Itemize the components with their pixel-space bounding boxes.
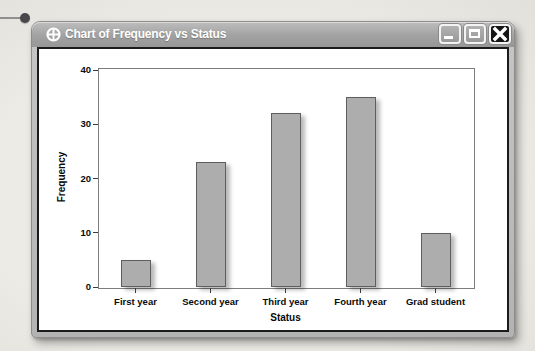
bar-first-year[interactable]: [121, 260, 151, 287]
window-content: Frequency Status 010203040First yearSeco…: [37, 47, 509, 332]
x-axis-tick: [210, 288, 211, 293]
y-axis-tick: [93, 287, 98, 288]
bar-chart: Frequency Status 010203040First yearSeco…: [39, 49, 507, 330]
window-title: Chart of Frequency vs Status: [65, 27, 226, 41]
x-axis-tick: [360, 288, 361, 293]
minimize-button[interactable]: [439, 24, 461, 44]
bar-third-year[interactable]: [271, 113, 301, 287]
y-axis-tick-label: 30: [63, 118, 91, 129]
y-axis-tick: [93, 70, 98, 71]
bar-fourth-year[interactable]: [346, 97, 376, 287]
x-axis-tick: [435, 288, 436, 293]
window-titlebar[interactable]: Chart of Frequency vs Status: [32, 22, 514, 47]
maximize-icon: [469, 29, 480, 38]
y-axis-tick-label: 0: [63, 281, 91, 292]
y-axis-tick-label: 10: [63, 227, 91, 238]
y-axis-tick: [93, 178, 98, 179]
maximize-button[interactable]: [464, 24, 486, 44]
close-button[interactable]: [489, 24, 511, 44]
chart-window: Chart of Frequency vs Status Frequen: [31, 21, 515, 338]
window-controls: [439, 24, 511, 44]
y-axis-tick-label: 20: [63, 173, 91, 184]
crosshair-globe-icon: [46, 27, 61, 42]
callout-dot-icon: [20, 13, 30, 23]
y-axis-tick: [93, 232, 98, 233]
x-axis-title: Status: [98, 312, 473, 323]
category-label: Grad student: [391, 296, 481, 307]
bar-grad-student[interactable]: [421, 233, 451, 287]
x-axis-tick: [285, 288, 286, 293]
minimize-icon: [444, 36, 453, 39]
y-axis-tick: [93, 124, 98, 125]
y-axis-tick-label: 40: [63, 64, 91, 75]
bar-second-year[interactable]: [196, 162, 226, 287]
page-background: Chart of Frequency vs Status Frequen: [0, 0, 535, 351]
x-axis-tick: [135, 288, 136, 293]
close-icon: [492, 26, 508, 42]
